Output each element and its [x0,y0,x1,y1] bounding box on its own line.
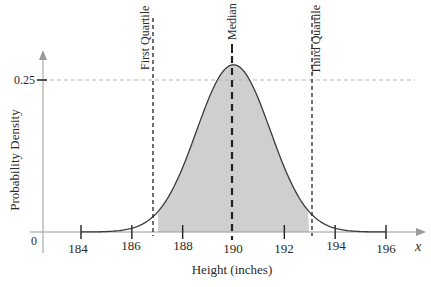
x-tick-labels: 184 186 188 190 192 194 196 [68,238,396,256]
third-quartile-label: Third Quartile [309,5,323,74]
first-quartile-label: First Quartile [138,6,152,70]
x-tick-label: 190 [223,241,243,256]
normal-distribution-chart: First Quartile Median Third Quartile 0.2… [0,0,431,287]
x-tick-label: 188 [173,238,193,253]
median-label: Median [225,3,239,40]
y-zero-label: 0 [31,234,37,248]
x-axis-symbol: x [414,239,422,254]
chart-svg: First Quartile Median Third Quartile 0.2… [0,0,431,287]
x-tick-label: 192 [274,241,294,256]
x-tick-label: 194 [326,238,346,253]
x-axis-arrow-icon [416,228,426,236]
x-axis-title: Height (inches) [192,262,273,277]
x-tick-label: 186 [121,238,141,253]
y-axis-arrow-icon [39,50,47,60]
y-axis-title: Probability Density [7,109,22,211]
x-tick-label: 184 [68,241,88,256]
y-tick-label-0-25: 0.25 [14,73,35,87]
x-tick-label: 196 [376,241,396,256]
shaded-interquartile-area [158,65,309,232]
